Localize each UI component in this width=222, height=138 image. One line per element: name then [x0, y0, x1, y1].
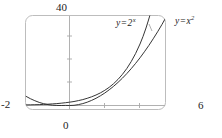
curve-label-quadratic: y=x2	[175, 15, 194, 27]
curve-label-exponential-base: 2	[128, 18, 133, 28]
curve-label-quadratic-exponent: 2	[191, 14, 194, 21]
x-axis-min-label: -2	[1, 99, 10, 110]
curve-label-exponential: y=2x	[116, 17, 135, 29]
curve-label-quadratic-equals: =	[179, 16, 186, 26]
curve-label-exponential-equals: =	[120, 18, 127, 28]
origin-label: 0	[63, 120, 69, 131]
curve-label-exponential-exponent: x	[133, 16, 136, 23]
y-axis-max-label: 40	[56, 2, 67, 13]
x-axis-max-label: 6	[198, 100, 204, 111]
